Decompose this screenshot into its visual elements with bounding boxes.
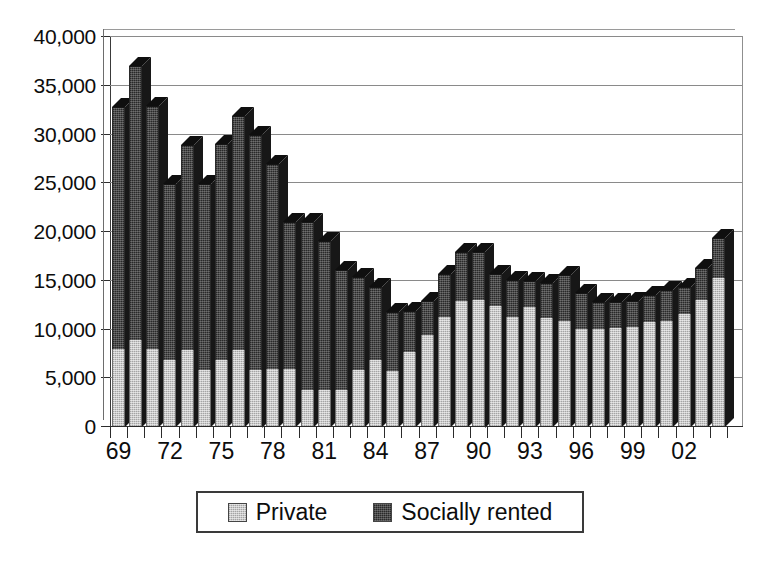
bar-group[interactable] xyxy=(472,37,485,427)
bar-group[interactable] xyxy=(626,37,639,427)
bar-group[interactable] xyxy=(660,37,673,427)
bar-segment-private xyxy=(129,340,142,427)
bar-column xyxy=(558,275,571,427)
bar-column xyxy=(352,277,365,427)
bar-segment-private xyxy=(455,301,468,427)
bar-segment-socially-rented xyxy=(198,184,211,370)
x-axis-tick-mark xyxy=(641,427,642,438)
bar-group[interactable] xyxy=(678,37,691,427)
x-axis-tick-mark xyxy=(658,427,659,438)
bar-group[interactable] xyxy=(318,37,331,427)
bar-group[interactable] xyxy=(198,37,211,427)
bar-group[interactable] xyxy=(352,37,365,427)
bar-group[interactable] xyxy=(146,37,159,427)
bar-segment-socially-rented xyxy=(678,287,691,314)
bar-group[interactable] xyxy=(266,37,279,427)
x-axis-tick-label: 87 xyxy=(414,440,440,463)
legend-swatch-private xyxy=(228,503,247,522)
x-axis-tick-label: 69 xyxy=(106,440,132,463)
y-axis-tick-label: 15,000 xyxy=(4,269,96,290)
x-axis-tick-mark xyxy=(161,427,162,438)
bar-column xyxy=(301,222,314,427)
bar-column xyxy=(215,144,228,427)
bar-group[interactable] xyxy=(403,37,416,427)
bar-group[interactable] xyxy=(386,37,399,427)
x-axis-tick-mark xyxy=(436,427,437,438)
bar-segment-private xyxy=(369,360,382,427)
bars-layer xyxy=(110,36,742,427)
bar-column xyxy=(506,280,519,427)
bar-group[interactable] xyxy=(592,37,605,427)
x-axis-tick-mark xyxy=(384,427,385,438)
bar-group[interactable] xyxy=(643,37,656,427)
bar-group[interactable] xyxy=(558,37,571,427)
bar-group[interactable] xyxy=(575,37,588,427)
bar-segment-private xyxy=(523,307,536,427)
bar-group[interactable] xyxy=(609,37,622,427)
bar-group[interactable] xyxy=(540,37,553,427)
bar-group[interactable] xyxy=(301,37,314,427)
bar-side-face xyxy=(725,229,734,427)
bar-column xyxy=(198,184,211,427)
y-axis-tick-label: 35,000 xyxy=(4,74,96,95)
bar-group[interactable] xyxy=(712,37,725,427)
legend-swatch-social xyxy=(373,503,392,522)
bar-segment-private xyxy=(266,369,279,428)
bar-group[interactable] xyxy=(335,37,348,427)
bar-group[interactable] xyxy=(455,37,468,427)
y-axis-tick-label: 40,000 xyxy=(4,26,96,47)
bar-column xyxy=(626,301,639,427)
bar-group[interactable] xyxy=(181,37,194,427)
bar-column xyxy=(678,287,691,427)
x-axis-tick-label: 81 xyxy=(311,440,337,463)
legend-entry[interactable]: Private xyxy=(228,501,328,524)
bar-column xyxy=(695,268,708,427)
bar-segment-socially-rented xyxy=(609,302,622,327)
bar-group[interactable] xyxy=(283,37,296,427)
bar-column xyxy=(575,293,588,427)
x-axis-tick-mark xyxy=(573,427,574,438)
x-axis-tick-mark xyxy=(213,427,214,438)
bar-segment-socially-rented xyxy=(695,268,708,300)
bar-column xyxy=(712,238,725,427)
bar-segment-socially-rented xyxy=(215,144,228,359)
bar-group[interactable] xyxy=(249,37,262,427)
bar-segment-private xyxy=(386,371,399,427)
bar-column xyxy=(335,270,348,427)
y-axis-tick-label: 5,000 xyxy=(4,367,96,388)
bar-group[interactable] xyxy=(489,37,502,427)
y-axis-tick-label: 0 xyxy=(4,416,96,437)
bar-segment-private xyxy=(301,390,314,427)
x-axis-tick-mark xyxy=(727,427,728,438)
bar-group[interactable] xyxy=(506,37,519,427)
x-axis-tick-mark xyxy=(367,427,368,438)
bar-segment-socially-rented xyxy=(266,164,279,369)
bar-group[interactable] xyxy=(438,37,451,427)
bar-segment-private xyxy=(163,360,176,427)
bar-group[interactable] xyxy=(163,37,176,427)
bar-column xyxy=(403,311,416,427)
bar-segment-socially-rented xyxy=(472,252,485,301)
bar-group[interactable] xyxy=(129,37,142,427)
x-axis-tick-mark xyxy=(350,427,351,438)
bar-segment-socially-rented xyxy=(540,283,553,318)
bar-segment-private xyxy=(215,360,228,427)
bar-group[interactable] xyxy=(112,37,125,427)
x-axis-tick-mark xyxy=(624,427,625,438)
bar-group[interactable] xyxy=(523,37,536,427)
bar-column xyxy=(129,66,142,427)
bar-group[interactable] xyxy=(421,37,434,427)
x-axis-tick-mark xyxy=(556,427,557,438)
bar-column xyxy=(523,281,536,427)
bar-segment-socially-rented xyxy=(335,270,348,390)
bar-group[interactable] xyxy=(369,37,382,427)
bar-group[interactable] xyxy=(215,37,228,427)
bar-column xyxy=(455,252,468,427)
x-axis-tick-mark xyxy=(401,427,402,438)
bar-segment-socially-rented xyxy=(318,241,331,390)
bar-group[interactable] xyxy=(695,37,708,427)
legend-entry[interactable]: Socially rented xyxy=(373,501,552,524)
bar-segment-socially-rented xyxy=(232,116,245,350)
x-axis-tick-mark xyxy=(281,427,282,438)
bar-group[interactable] xyxy=(232,37,245,427)
